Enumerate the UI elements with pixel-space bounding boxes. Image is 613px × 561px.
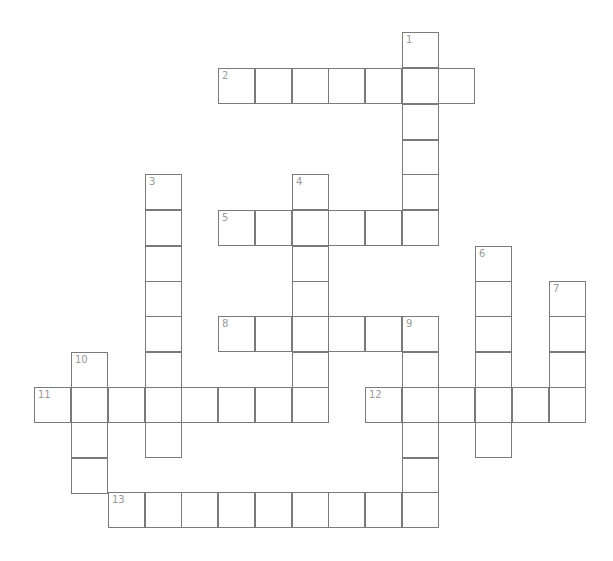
crossword-cell[interactable] (145, 210, 182, 246)
crossword-cell[interactable] (475, 316, 512, 352)
crossword-cell[interactable] (71, 422, 108, 458)
crossword-cell[interactable] (328, 210, 365, 246)
crossword-cell[interactable] (71, 387, 108, 423)
crossword-cell[interactable] (255, 492, 292, 528)
crossword-cell[interactable] (292, 68, 329, 104)
crossword-cell[interactable]: 5 (218, 210, 255, 246)
crossword-cell[interactable] (108, 387, 145, 423)
crossword-cell[interactable] (218, 387, 255, 423)
crossword-cell[interactable] (402, 174, 439, 210)
clue-number: 3 (149, 176, 155, 187)
crossword-cell[interactable] (402, 104, 439, 140)
clue-number: 9 (406, 318, 412, 329)
crossword-cell[interactable]: 8 (218, 316, 255, 352)
clue-number: 1 (406, 34, 412, 45)
crossword-cell[interactable] (292, 281, 329, 317)
clue-number: 10 (75, 354, 88, 365)
clue-number: 5 (222, 212, 228, 223)
crossword-cell[interactable]: 3 (145, 174, 182, 210)
crossword-cell[interactable] (145, 492, 182, 528)
crossword-cell[interactable]: 7 (549, 281, 586, 317)
crossword-cell[interactable] (475, 387, 512, 423)
clue-number: 13 (112, 494, 125, 505)
crossword-cell[interactable] (328, 68, 365, 104)
crossword-cell[interactable] (438, 387, 475, 423)
crossword-cell[interactable] (292, 210, 329, 246)
crossword-cell[interactable] (145, 246, 182, 282)
crossword-cell[interactable] (328, 316, 365, 352)
crossword-cell[interactable]: 2 (218, 68, 255, 104)
crossword-cell[interactable]: 13 (108, 492, 145, 528)
clue-number: 2 (222, 70, 228, 81)
crossword-cell[interactable] (402, 422, 439, 458)
crossword-cell[interactable] (475, 352, 512, 388)
crossword-cell[interactable] (328, 492, 365, 528)
crossword-cell[interactable] (71, 458, 108, 494)
crossword-cell[interactable] (181, 492, 218, 528)
crossword-cell[interactable]: 4 (292, 174, 329, 210)
crossword-cell[interactable] (549, 316, 586, 352)
crossword-cell[interactable] (365, 492, 402, 528)
clue-number: 11 (38, 389, 51, 400)
crossword-cell[interactable] (292, 492, 329, 528)
crossword-cell[interactable] (255, 387, 292, 423)
crossword-cell[interactable] (292, 246, 329, 282)
crossword-grid: 12345678910111213 (0, 0, 613, 561)
crossword-cell[interactable] (402, 210, 439, 246)
crossword-cell[interactable]: 1 (402, 32, 439, 68)
crossword-cell[interactable] (181, 387, 218, 423)
crossword-cell[interactable] (549, 387, 586, 423)
crossword-cell[interactable] (402, 458, 439, 494)
crossword-cell[interactable] (549, 352, 586, 388)
crossword-cell[interactable] (145, 316, 182, 352)
crossword-cell[interactable] (145, 422, 182, 458)
crossword-cell[interactable] (402, 140, 439, 176)
crossword-cell[interactable] (402, 387, 439, 423)
crossword-cell[interactable] (145, 281, 182, 317)
crossword-cell[interactable]: 9 (402, 316, 439, 352)
clue-number: 6 (479, 248, 485, 259)
crossword-cell[interactable] (292, 387, 329, 423)
crossword-cell[interactable] (292, 352, 329, 388)
crossword-cell[interactable] (292, 316, 329, 352)
crossword-cell[interactable] (365, 68, 402, 104)
clue-number: 8 (222, 318, 228, 329)
crossword-cell[interactable] (255, 68, 292, 104)
crossword-cell[interactable] (255, 316, 292, 352)
clue-number: 4 (296, 176, 302, 187)
crossword-cell[interactable] (365, 210, 402, 246)
crossword-cell[interactable] (402, 352, 439, 388)
crossword-cell[interactable] (475, 281, 512, 317)
clue-number: 7 (553, 283, 559, 294)
crossword-cell[interactable] (402, 492, 439, 528)
crossword-cell[interactable] (145, 352, 182, 388)
crossword-cell[interactable] (475, 422, 512, 458)
crossword-cell[interactable] (218, 492, 255, 528)
crossword-cell[interactable]: 12 (365, 387, 402, 423)
crossword-cell[interactable] (438, 68, 475, 104)
crossword-cell[interactable] (365, 316, 402, 352)
crossword-cell[interactable]: 6 (475, 246, 512, 282)
crossword-cell[interactable] (402, 68, 439, 104)
clue-number: 12 (369, 389, 382, 400)
crossword-cell[interactable]: 10 (71, 352, 108, 388)
crossword-cell[interactable] (145, 387, 182, 423)
crossword-cell[interactable] (512, 387, 549, 423)
crossword-cell[interactable] (255, 210, 292, 246)
crossword-cell[interactable]: 11 (34, 387, 71, 423)
